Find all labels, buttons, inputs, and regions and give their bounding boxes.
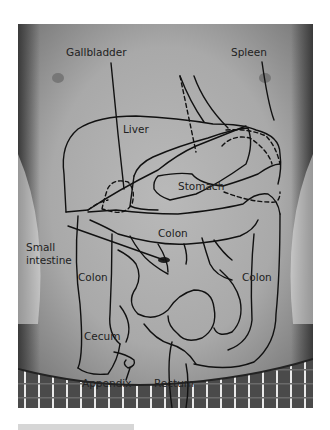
label-stomach: Stomach <box>178 180 224 192</box>
label-gallbladder: Gallbladder <box>66 46 127 58</box>
label-appendix: Appendix <box>82 377 131 389</box>
label-small-intestine-1: Small <box>26 241 55 253</box>
label-colon-ascending: Colon <box>78 271 108 283</box>
label-liver: Liver <box>123 123 149 135</box>
label-small-intestine-2: intestine <box>26 254 72 266</box>
abdomen-anatomy-figure: Gallbladder Spleen Liver Stomach Colon S… <box>18 24 313 408</box>
torso-photo <box>18 24 313 408</box>
label-rectum: Rectum <box>154 377 194 389</box>
left-nipple <box>52 73 64 83</box>
label-colon-descending: Colon <box>242 271 272 283</box>
label-cecum: Cecum <box>84 330 120 342</box>
label-colon-transverse: Colon <box>158 227 188 239</box>
label-spleen: Spleen <box>231 46 267 58</box>
caption-placeholder-bar <box>18 424 134 430</box>
